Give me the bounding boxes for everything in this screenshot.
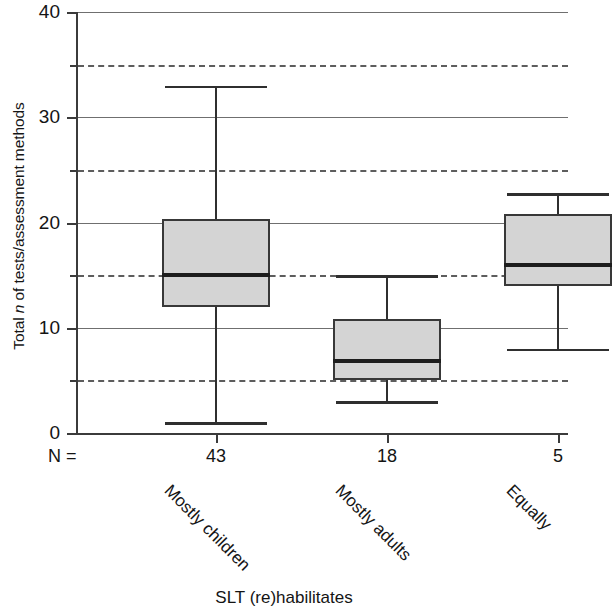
y-tick-label: 10 — [0, 317, 60, 339]
x-axis-title: SLT (re)habilitates — [0, 588, 568, 608]
whisker-lower-stem — [557, 286, 560, 349]
median-line — [504, 263, 612, 267]
plot-area — [76, 12, 568, 435]
y-tick-label: 0 — [0, 422, 60, 444]
category-label: Mostly adults — [331, 481, 415, 565]
whisker-lower-cap — [507, 349, 609, 352]
y-axis-title-post: of tests/assessment methods — [10, 102, 27, 304]
y-tick-label: 30 — [0, 106, 60, 128]
y-axis-title-italic-n: n — [10, 305, 27, 314]
box-iqr — [504, 214, 612, 286]
whisker-upper-stem — [557, 193, 560, 214]
n-value: 43 — [206, 446, 226, 467]
category-label: Equally — [502, 481, 556, 535]
box-plot — [76, 12, 568, 435]
category-label: Mostly children — [160, 481, 254, 575]
n-value: 18 — [377, 446, 397, 467]
n-value: 5 — [553, 446, 563, 467]
y-tick-label: 20 — [0, 212, 60, 234]
n-equals-label: N = — [48, 446, 77, 467]
y-tick-label: 40 — [0, 1, 60, 23]
whisker-upper-cap — [507, 193, 609, 196]
